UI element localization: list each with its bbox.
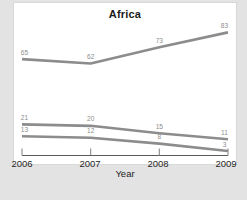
chart-page: Africa 6562738321201511131283 2006 2007 … — [0, 0, 247, 200]
data-label: 83 — [221, 22, 229, 29]
data-label: 13 — [21, 126, 29, 133]
data-label: 15 — [156, 123, 164, 130]
x-axis-ticks — [22, 149, 228, 156]
data-label: 8 — [157, 133, 161, 140]
data-label: 3 — [223, 141, 227, 148]
x-axis-title: Year — [13, 168, 237, 179]
data-label: 62 — [87, 53, 95, 60]
data-label: 65 — [21, 49, 29, 56]
data-label: 12 — [87, 127, 95, 134]
data-label: 20 — [87, 115, 95, 122]
data-label: 21 — [21, 114, 29, 121]
series-line-3 — [22, 136, 228, 151]
series-line-1 — [22, 32, 228, 63]
data-label: 11 — [221, 129, 228, 136]
data-label: 73 — [156, 37, 164, 44]
